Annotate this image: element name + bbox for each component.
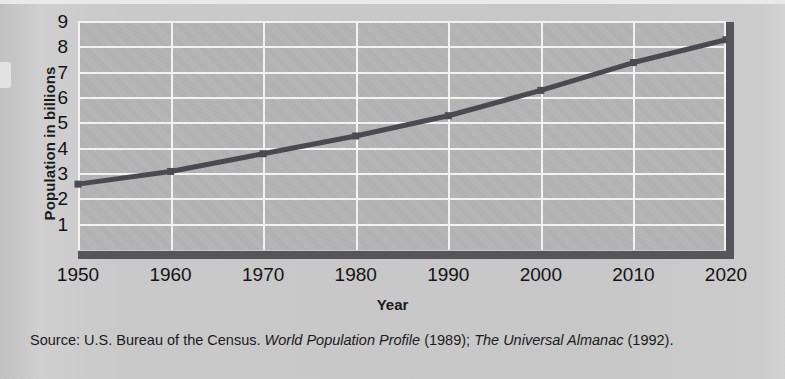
y-axis-tick-label: 4	[24, 138, 68, 160]
y-axis-tick-label: 9	[24, 11, 68, 33]
y-axis-tick-label: 7	[24, 62, 68, 84]
data-point-marker	[352, 133, 359, 140]
x-axis-tick-label: 1970	[218, 264, 308, 286]
page-top-edge	[0, 0, 785, 4]
x-axis-tick-label: 1950	[33, 264, 123, 286]
data-point-marker	[260, 150, 267, 157]
series-line	[78, 40, 726, 184]
y-axis-tick-label: 6	[24, 87, 68, 109]
source-caption: Source: U.S. Bureau of the Census. World…	[30, 332, 770, 348]
y-axis-tick-label: 1	[24, 214, 68, 236]
x-axis-title: Year	[0, 296, 785, 313]
y-axis-tick-label: 5	[24, 112, 68, 134]
source-publication-1-year: (1989);	[424, 332, 470, 348]
data-point-marker	[167, 168, 174, 175]
data-point-marker	[75, 181, 82, 188]
data-point-marker	[630, 59, 637, 66]
source-publication-2-year: (1992).	[628, 332, 674, 348]
population-chart-figure: Population in billions 123456789 1950196…	[0, 0, 785, 379]
x-axis-tick-label: 2020	[681, 264, 771, 286]
source-publication-2: The Universal Almanac	[474, 332, 623, 348]
right-axis-line	[726, 22, 734, 254]
y-axis-tick-labels: 123456789	[24, 22, 68, 250]
x-axis-line	[78, 251, 734, 259]
data-point-marker	[537, 87, 544, 94]
x-axis-tick-label: 1990	[403, 264, 493, 286]
source-prefix: Source: U.S. Bureau of the Census.	[30, 332, 261, 348]
x-axis-tick-label: 2010	[588, 264, 678, 286]
y-axis-tick-label: 8	[24, 36, 68, 58]
left-margin-notch	[0, 62, 11, 88]
source-publication-1: World Population Profile	[265, 332, 421, 348]
x-axis-tick-label: 1960	[126, 264, 216, 286]
data-point-marker	[445, 112, 452, 119]
series-line-chart	[78, 22, 726, 250]
y-axis-tick-label: 2	[24, 188, 68, 210]
x-axis-tick-labels: 19501960197019801990200020102020	[78, 264, 726, 290]
x-axis-tick-label: 2000	[496, 264, 586, 286]
y-axis-tick-label: 3	[24, 163, 68, 185]
x-axis-tick-label: 1980	[311, 264, 401, 286]
